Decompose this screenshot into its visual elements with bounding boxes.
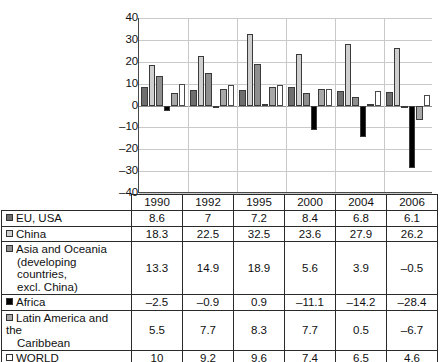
bar [345,44,352,105]
y-axis-tick-labels: 403020100–10–20–30–40 [0,0,138,200]
bar [141,87,148,106]
table-body: EU, USA8.677.28.46.86.1China18.322.532.5… [2,211,438,362]
bar-group-1995 [237,18,286,192]
row-label-line: Latin America and the [6,312,108,337]
value-cell: –6.7 [387,310,438,351]
legend-swatch-icon [6,230,13,237]
bar-group-1992 [188,18,237,192]
figure-with-data-table: 403020100–10–20–30–40 199019921995200020… [0,0,441,362]
bar [239,90,246,106]
value-cell: 22.5 [183,226,234,242]
bar [247,34,254,105]
row-label-line: Caribbean [6,337,127,350]
bar-group-2006 [384,18,433,192]
value-cell: 8.4 [285,211,336,227]
value-cell: –14.2 [336,295,387,311]
value-cell: 7.7 [183,310,234,351]
value-cell: 7.7 [285,310,336,351]
value-cell: 9.6 [234,351,285,362]
column-header-2006: 2006 [387,195,438,211]
table-row: WORLD109.29.67.46.54.6 [2,351,438,362]
row-label-cell: Africa [2,295,132,311]
column-header-1995: 1995 [234,195,285,211]
legend-swatch-icon [6,214,13,221]
data-table: 199019921995200020042006 EU, USA8.677.28… [1,194,438,362]
value-cell: 3.9 [336,242,387,295]
bar [394,48,401,105]
legend-swatch-icon [6,314,13,321]
value-cell: 8.3 [234,310,285,351]
bar [205,73,212,106]
value-cell: 0.5 [336,310,387,351]
legend-swatch-icon [6,245,13,252]
row-label-cell: WORLD [2,351,132,362]
value-cell: 9.2 [183,351,234,362]
value-cell: 7 [183,211,234,227]
y-axis-tick-label: 10 [2,78,138,89]
value-cell: 10 [132,351,183,362]
y-axis-tick-label: 40 [2,12,138,23]
row-label-line: WORLD [16,352,59,362]
bar [360,106,367,137]
bar [409,106,416,168]
bar [228,85,235,105]
value-cell: –2.5 [132,295,183,311]
bar [326,89,333,105]
bar [352,97,359,106]
bar-group-2004 [335,18,384,192]
value-cell: –28.4 [387,295,438,311]
value-cell: 7.2 [234,211,285,227]
bar [254,64,261,105]
row-label-line: Asia and Oceania [16,243,107,255]
bar-group-2000 [286,18,335,192]
bar [156,76,163,105]
row-label-line: Africa [16,296,45,308]
column-header-2000: 2000 [285,195,336,211]
value-cell: 6.5 [336,351,387,362]
value-cell: 8.6 [132,211,183,227]
bar [401,106,408,108]
value-cell: 32.5 [234,226,285,242]
y-axis-tick-label: 30 [2,34,138,45]
y-axis-tick-label: 20 [2,56,138,67]
bar [269,87,276,105]
value-cell: 13.3 [132,242,183,295]
value-cell: 4.6 [387,351,438,362]
bar [303,93,310,105]
value-cell: 26.2 [387,226,438,242]
bar [337,91,344,106]
value-cell: 0.9 [234,295,285,311]
table-row: EU, USA8.677.28.46.86.1 [2,211,438,227]
bar [213,106,220,108]
row-label-line: EU, USA [16,212,62,224]
row-label-cell: China [2,226,132,242]
bar [277,85,284,106]
value-cell: 5.6 [285,242,336,295]
value-cell: 6.8 [336,211,387,227]
bar [386,92,393,105]
value-cell: 6.1 [387,211,438,227]
bar [179,84,186,106]
row-label-cell: Latin America and theCaribbean [2,310,132,351]
row-label-cell: Asia and Oceania(developing countries,ex… [2,242,132,295]
bar [262,104,269,106]
bar [416,106,423,121]
value-cell: 7.4 [285,351,336,362]
bar [296,54,303,106]
table-header: 199019921995200020042006 [2,195,438,211]
bar [311,106,318,130]
row-label-line: (developing countries, [6,256,127,281]
value-cell: 18.9 [234,242,285,295]
grouped-bar-chart: 403020100–10–20–30–40 [0,0,441,200]
column-header-1992: 1992 [183,195,234,211]
value-cell: –0.5 [387,242,438,295]
plot-area [138,18,432,193]
bar-group-1990 [139,18,188,192]
table-header-row: 199019921995200020042006 [2,195,438,211]
bar [424,95,431,105]
table-row: China18.322.532.523.627.926.2 [2,226,438,242]
column-header-1990: 1990 [132,195,183,211]
y-axis-tick-label: 0 [2,100,138,111]
bar [190,90,197,105]
table-corner-cell [2,195,132,211]
